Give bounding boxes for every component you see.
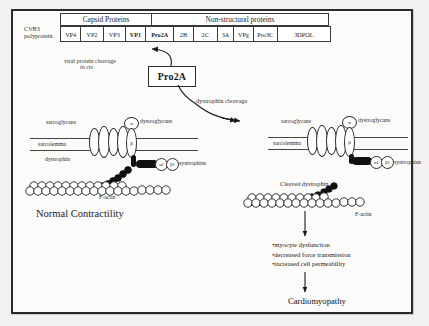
- figure-canvas: CVB3 polyprotein Capsid Proteins Non-str…: [0, 0, 429, 326]
- cvb3-polyprotein-label: CVB3 polyprotein: [24, 26, 53, 39]
- cis-cleavage-line2: in cis: [80, 64, 116, 70]
- right-dystroglycans-caption: dystroglycans: [358, 117, 390, 123]
- left-dg-beta-label: β: [130, 141, 133, 146]
- outcomes-bullet-list: •myocyte dysfunction •decreased force tr…: [272, 240, 350, 269]
- left-dg-alpha-label: α: [130, 121, 133, 126]
- left-syntrophins-caption: syntrophins: [179, 160, 206, 166]
- left-dystroglycan-beta: β: [126, 128, 137, 158]
- genome-header-row: Capsid Proteins Non-structural proteins: [60, 13, 330, 26]
- genome-cell-2b: 2B: [173, 26, 193, 42]
- right-dystrophin-dark-domain: [352, 157, 372, 165]
- cardiomyopathy-label: Cardiomyopathy: [288, 297, 346, 306]
- genome-cell-3dpol: 3DPOL: [277, 26, 331, 42]
- pro2a-protease-box: Pro2A: [148, 66, 196, 87]
- right-sarcoglycans-caption: sarcoglycans: [281, 118, 311, 124]
- outcome-bullet-3: •increased cell permeability: [272, 259, 350, 269]
- left-dystroglycans-caption: dystroglycans: [140, 118, 172, 124]
- genome-cell-vpg: VPg: [233, 26, 253, 42]
- right-dg-alpha-label: α: [348, 120, 351, 125]
- genome-cell-pro2a: Pro2A: [145, 26, 174, 42]
- left-syn1-label: α1: [159, 162, 164, 167]
- right-dystroglycan-beta: β: [344, 127, 355, 157]
- left-syntrophin-2: β1: [166, 158, 179, 171]
- cis-cleavage-label: viral protein cleavage in cis: [64, 58, 116, 71]
- outcome-bullet-1: •myocyte dysfunction: [272, 240, 350, 250]
- cvb3-label-line2: polyprotein: [24, 32, 53, 39]
- dystrophin-cleavage-label: dystrophin cleavage: [196, 98, 247, 105]
- genome-cell-vp3: VP3: [103, 26, 126, 42]
- right-syn2-label: β1: [385, 160, 390, 165]
- right-dg-beta-label: β: [348, 140, 351, 145]
- left-syn2-label: β1: [170, 162, 175, 167]
- genome-header-capsid: Capsid Proteins: [60, 13, 152, 26]
- genome-cell-row: VP4 VP2 VP3 VP1 Pro2A 2B 2C 3A VPg Pro3C…: [60, 26, 330, 42]
- cis-cleavage-line1: viral protein cleavage: [64, 58, 116, 64]
- right-sarcolemma-caption: sarcolemma: [273, 140, 301, 146]
- genome-cell-2c: 2C: [193, 26, 218, 42]
- genome-cell-vp1: VP1: [125, 26, 146, 42]
- genome-cell-3a: 3A: [217, 26, 234, 42]
- genome-header-nonstructural: Non-structural proteins: [151, 13, 329, 26]
- left-sarcoglycans-caption: sarcoglycans: [46, 119, 76, 125]
- right-factin-caption: F-actin: [355, 211, 371, 217]
- right-syntrophin-2: β1: [381, 156, 394, 169]
- cleaved-dystrophin-caption: Cleaved dystrophin: [280, 180, 328, 187]
- right-syntrophins-caption: syntrophins: [394, 159, 421, 165]
- genome-cell-vp2: VP2: [80, 26, 103, 42]
- left-factin-caption: F-actin: [99, 194, 115, 200]
- left-dystrophin-caption: dystrophin: [45, 156, 70, 162]
- genome-cell-vp4: VP4: [60, 26, 81, 42]
- polyprotein-genome-map: Capsid Proteins Non-structural proteins …: [60, 13, 330, 42]
- outcome-bullet-2: •decreased force transmission: [272, 250, 350, 260]
- genome-cell-pro3c: Pro3C: [253, 26, 278, 42]
- right-syn1-label: α1: [374, 160, 379, 165]
- left-sarcolemma-caption: sarcolemma: [38, 141, 66, 147]
- normal-contractility-caption: Normal Contractility: [36, 208, 124, 219]
- pro2a-box-label: Pro2A: [158, 71, 187, 82]
